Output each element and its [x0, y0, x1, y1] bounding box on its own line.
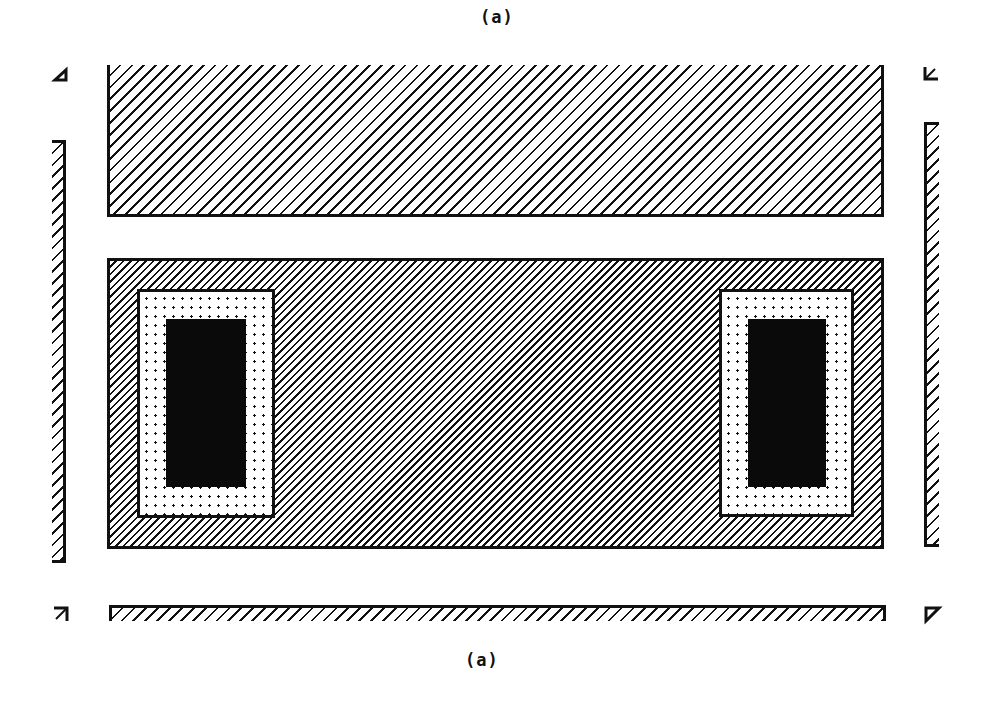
corner-mark-top-left-icon [55, 70, 66, 80]
bottom-cutline-label: (a) [465, 650, 499, 670]
corner-mark-top-right-icon [925, 67, 938, 79]
corner-mark-bottom-right-icon [926, 608, 939, 621]
corner-marks-layer [0, 0, 993, 716]
corner-mark-bottom-left-icon [54, 608, 67, 621]
